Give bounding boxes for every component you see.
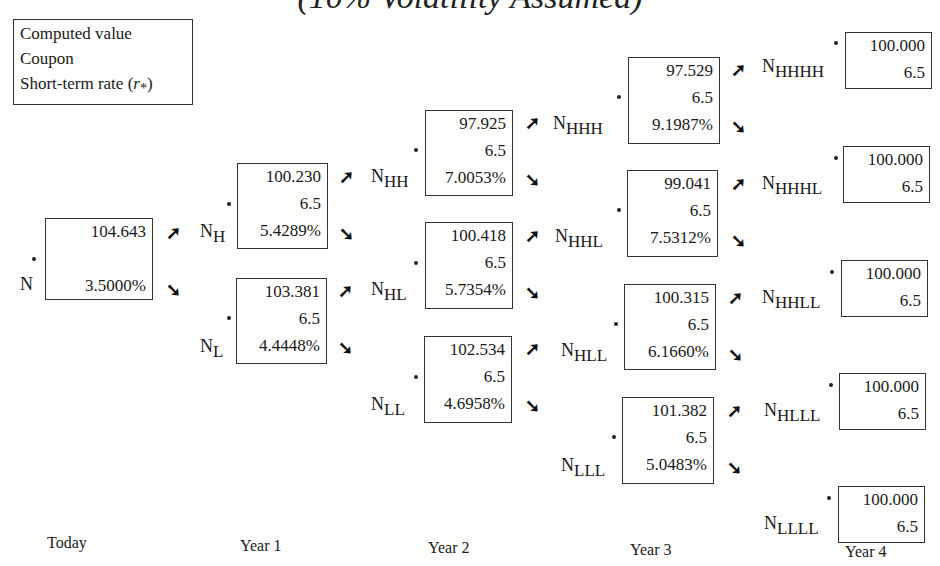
node-value: 104.643 bbox=[52, 219, 146, 246]
node-rate: 4.4448% bbox=[243, 333, 320, 360]
node-box-nhll: 100.315 6.5 6.1660% bbox=[624, 284, 716, 370]
node-label-nh: NH bbox=[200, 221, 225, 247]
node-coupon: 6.5 bbox=[634, 198, 711, 225]
arrow-up-icon: ➚ bbox=[339, 168, 354, 186]
node-value: 97.925 bbox=[432, 111, 506, 138]
node-dot bbox=[614, 322, 618, 326]
period-label-today: Today bbox=[47, 534, 87, 552]
node-box-nl: 103.381 6.5 4.4448% bbox=[236, 278, 327, 364]
node-coupon: 6.5 bbox=[852, 60, 925, 87]
node-label-nhhh: NHHH bbox=[553, 113, 603, 139]
node-dot bbox=[612, 435, 616, 439]
node-coupon: 6.5 bbox=[244, 191, 321, 218]
period-label-year-3: Year 3 bbox=[630, 541, 671, 559]
node-rate: 7.5312% bbox=[634, 225, 711, 252]
node-dot bbox=[227, 202, 231, 206]
node-box-nhhhl: 100.000 6.5 bbox=[843, 146, 930, 203]
arrow-down-icon: ➘ bbox=[727, 459, 742, 477]
node-label-nll: NLL bbox=[371, 394, 405, 420]
node-value: 101.382 bbox=[629, 398, 707, 425]
node-value: 97.529 bbox=[635, 58, 713, 85]
node-rate: 5.0483% bbox=[629, 452, 707, 479]
node-coupon: 6.5 bbox=[432, 250, 506, 277]
node-dot bbox=[32, 257, 36, 261]
node-box-n: 104.643 3.5000% bbox=[45, 218, 153, 300]
node-box-nlll: 101.382 6.5 5.0483% bbox=[622, 397, 714, 484]
arrow-down-icon: ➘ bbox=[731, 232, 746, 250]
node-rate: 3.5000% bbox=[52, 273, 146, 300]
node-box-nhl: 100.418 6.5 5.7354% bbox=[425, 222, 513, 309]
legend-coupon: Coupon bbox=[20, 46, 186, 71]
node-value: 100.418 bbox=[432, 223, 506, 250]
node-label-nhhl: NHHL bbox=[555, 226, 603, 252]
node-label-nhh: NHH bbox=[371, 166, 409, 192]
node-label-nllll: NLLLL bbox=[764, 513, 819, 539]
node-box-nh: 100.230 6.5 5.4289% bbox=[237, 163, 328, 249]
arrow-down-icon: ➘ bbox=[525, 284, 540, 302]
node-coupon: 6.5 bbox=[846, 401, 919, 428]
node-dot bbox=[414, 148, 418, 152]
node-label-nhll: NHLL bbox=[561, 340, 607, 366]
node-label-nhhhl: NHHHL bbox=[762, 173, 822, 199]
node-box-nhh: 97.925 6.5 7.0053% bbox=[425, 110, 513, 196]
arrow-up-icon: ➚ bbox=[728, 289, 743, 307]
node-label-nhhhh: NHHHH bbox=[762, 56, 824, 82]
node-value: 100.000 bbox=[850, 147, 923, 174]
node-value: 100.000 bbox=[846, 374, 919, 401]
node-label-nhl: NHL bbox=[371, 279, 407, 305]
arrow-down-icon: ➘ bbox=[166, 281, 181, 299]
node-box-nllll: 100.000 6.5 bbox=[838, 486, 925, 543]
node-coupon: 6.5 bbox=[629, 425, 707, 452]
node-coupon: 6.5 bbox=[631, 312, 709, 339]
node-dot bbox=[617, 95, 621, 99]
node-dot bbox=[414, 375, 418, 379]
legend-short-term-rate: Short-term rate (r*) bbox=[20, 71, 186, 101]
diagram-title: (10% Volatility Assumed) bbox=[0, 0, 940, 16]
node-coupon: 6.5 bbox=[432, 138, 506, 165]
arrow-down-icon: ➘ bbox=[731, 118, 746, 136]
arrow-down-icon: ➘ bbox=[728, 346, 743, 364]
node-value: 103.381 bbox=[243, 279, 320, 306]
arrow-up-icon: ➚ bbox=[166, 224, 181, 242]
node-box-nhhll: 100.000 6.5 bbox=[841, 260, 928, 317]
arrow-up-icon: ➚ bbox=[727, 402, 742, 420]
node-label-nlll: NLLL bbox=[561, 455, 605, 481]
node-dot bbox=[414, 261, 418, 265]
node-dot bbox=[827, 496, 831, 500]
node-dot bbox=[830, 270, 834, 274]
node-rate: 4.6958% bbox=[431, 391, 505, 418]
node-label-nl: NL bbox=[200, 336, 223, 362]
arrow-up-icon: ➚ bbox=[731, 175, 746, 193]
period-label-year-4: Year 4 bbox=[845, 543, 886, 561]
arrow-down-icon: ➘ bbox=[338, 339, 353, 357]
node-coupon: 6.5 bbox=[431, 364, 505, 391]
node-value: 100.000 bbox=[848, 261, 921, 288]
node-dot bbox=[834, 156, 838, 160]
node-label-n: N bbox=[20, 274, 33, 295]
node-label-nhlll: NHLLL bbox=[764, 400, 820, 426]
arrow-up-icon: ➚ bbox=[525, 227, 540, 245]
node-coupon: 6.5 bbox=[635, 85, 713, 112]
node-value: 102.534 bbox=[431, 337, 505, 364]
node-coupon bbox=[52, 246, 146, 273]
arrow-up-icon: ➚ bbox=[525, 114, 540, 132]
node-rate: 9.1987% bbox=[635, 112, 713, 139]
node-value: 100.315 bbox=[631, 285, 709, 312]
arrow-up-icon: ➚ bbox=[731, 61, 746, 79]
node-value: 100.230 bbox=[244, 164, 321, 191]
node-box-nhhhh: 100.000 6.5 bbox=[845, 32, 932, 89]
node-dot bbox=[617, 208, 621, 212]
node-box-nhhh: 97.529 6.5 9.1987% bbox=[628, 57, 720, 144]
node-coupon: 6.5 bbox=[243, 306, 320, 333]
node-coupon: 6.5 bbox=[845, 514, 918, 541]
node-value: 100.000 bbox=[845, 487, 918, 514]
node-rate: 5.4289% bbox=[244, 218, 321, 245]
arrow-down-icon: ➘ bbox=[525, 397, 540, 415]
node-coupon: 6.5 bbox=[850, 174, 923, 201]
node-box-nll: 102.534 6.5 4.6958% bbox=[424, 336, 512, 423]
arrow-up-icon: ➚ bbox=[525, 340, 540, 358]
node-box-nhhl: 99.041 6.5 7.5312% bbox=[627, 170, 718, 257]
node-rate: 6.1660% bbox=[631, 339, 709, 366]
node-coupon: 6.5 bbox=[848, 288, 921, 315]
node-dot bbox=[829, 383, 833, 387]
